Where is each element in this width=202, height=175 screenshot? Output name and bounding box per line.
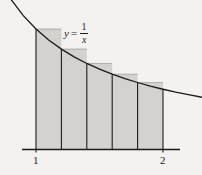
figure-riemann-sum-1-over-x: y = 1 x 1 2 [0, 0, 202, 175]
shaded-region-fill [61, 49, 86, 149]
fraction-numerator: 1 [81, 22, 88, 33]
x-axis-label-1: 1 [33, 155, 39, 166]
x-axis-label-2: 2 [160, 155, 166, 166]
curve-equation-label: y = 1 x [64, 22, 88, 45]
fraction-denominator: x [81, 34, 87, 45]
equation-fraction-one-over-x: 1 x [80, 22, 88, 45]
figure-canvas [0, 0, 202, 175]
equation-equals-sign: = [71, 28, 79, 39]
shaded-region-fill [87, 63, 112, 149]
equation-variable-y: y [64, 28, 71, 39]
shaded-region-fill [138, 83, 163, 149]
shaded-rectangles-group [36, 29, 163, 149]
shaded-region-fill [112, 74, 137, 149]
